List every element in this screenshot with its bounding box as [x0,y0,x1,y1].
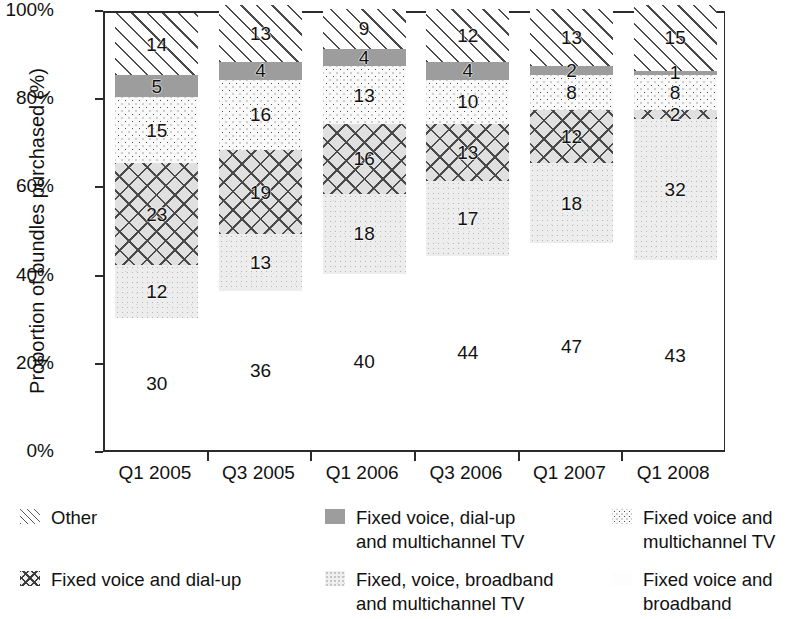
bar-segment-value: 15 [146,121,167,140]
bar-segment[interactable]: 16 [323,124,406,195]
y-axis-tick-mark [95,275,103,277]
legend-label-dialup-mtv: Fixed voice, dial-up and multichannel TV [356,506,524,554]
bar-segment[interactable]: 4 [323,49,406,67]
bar-q3-2006[interactable]: 44171310412 [426,9,509,450]
bar-segment-value: 14 [146,35,167,54]
bar-segment-value: 13 [457,143,478,162]
bar-segment[interactable]: 15 [115,97,198,163]
bar-segment-value: 8 [670,83,681,102]
x-axis-tick-label: Q1 2006 [310,462,414,484]
legend-item-voice-dialup[interactable]: Fixed voice and dial-up [20,568,241,592]
x-axis-tick-label: Q1 2008 [621,462,725,484]
legend-item-other[interactable]: Other [20,506,97,530]
legend-swatch-voice-dialup [20,571,40,586]
bar-segment-value: 5 [152,77,163,96]
bar-segment[interactable]: 32 [634,119,717,260]
bar-segment[interactable]: 15 [634,5,717,71]
legend-label-voice-bb-mtv: Fixed, voice, broadband and multichannel… [356,568,553,616]
bar-segment-value: 12 [457,26,478,45]
x-axis-tick-label: Q1 2007 [518,462,622,484]
stacked-bar-chart: Proportion of bundles purchased (%) 100%… [0,0,796,619]
bar-segment[interactable]: 4 [219,62,302,80]
bar-q1-2007[interactable]: 4718128213 [530,9,613,450]
legend-swatch-other [20,509,40,524]
bar-segment[interactable]: 2 [634,110,717,119]
bar-segment[interactable]: 19 [219,150,302,234]
bar-segment[interactable]: 17 [426,181,509,256]
bar-segment[interactable]: 13 [426,124,509,181]
bar-segment[interactable]: 13 [323,66,406,123]
bar-segment[interactable]: 18 [530,163,613,242]
legend-swatch-voice-mtv [612,509,632,524]
bar-segment-value: 32 [665,180,686,199]
y-axis-tick-mark [95,10,103,12]
bar-segment-value: 10 [457,92,478,111]
bar-segment[interactable]: 14 [115,13,198,75]
bar-segment[interactable]: 13 [219,234,302,291]
legend-swatch-voice-bb-mtv [325,571,345,586]
y-axis-tick-mark [95,98,103,100]
legend-item-dialup-mtv[interactable]: Fixed voice, dial-up and multichannel TV [325,506,524,554]
bar-segment[interactable]: 30 [115,318,198,450]
bar-segment-value: 17 [457,209,478,228]
x-axis-tick-mark [207,452,209,461]
bar-segment[interactable]: 44 [426,256,509,450]
bar-segment-value: 18 [354,224,375,243]
legend-swatch-dialup-mtv [325,509,345,524]
bar-segment[interactable]: 12 [530,110,613,163]
legend-item-voice-bb[interactable]: Fixed voice and broadband [612,568,773,616]
bar-q1-2008[interactable]: 433228115 [634,9,717,450]
legend-item-voice-mtv[interactable]: Fixed voice and multichannel TV [612,506,775,554]
bar-segment[interactable]: 5 [115,75,198,97]
bar-segment-value: 4 [359,48,370,67]
bar-segment[interactable]: 16 [219,80,302,151]
bar-q1-2006[interactable]: 4018161349 [323,9,406,450]
legend-item-voice-bb-mtv[interactable]: Fixed, voice, broadband and multichannel… [325,568,553,616]
bar-segment-value: 4 [463,61,474,80]
bar-segment[interactable]: 36 [219,291,302,450]
bar-segment-value: 13 [250,24,271,43]
legend-label-voice-mtv: Fixed voice and multichannel TV [643,506,775,554]
bar-segment-value: 8 [566,83,577,102]
bar-segment-value: 1 [670,63,681,82]
bar-segment[interactable]: 13 [219,5,302,62]
x-axis-tick-label: Q1 2005 [103,462,207,484]
bar-segment-value: 23 [146,205,167,224]
bar-segment[interactable]: 40 [323,274,406,450]
bar-q1-2005[interactable]: 30122315514 [115,9,198,450]
bar-segment-value: 16 [354,149,375,168]
bar-segment-value: 47 [561,337,582,356]
chart-legend: OtherFixed voice and dial-upFixed voice,… [0,498,796,619]
bar-segment[interactable]: 23 [115,163,198,264]
y-axis-title: Proportion of bundles purchased (%) [26,0,52,466]
bar-segment-value: 12 [561,127,582,146]
x-axis-tick-label: Q3 2006 [414,462,518,484]
bar-segment-value: 44 [457,343,478,362]
bar-segment[interactable]: 1 [634,71,717,75]
bar-segment-value: 12 [146,282,167,301]
bar-segment[interactable]: 9 [323,9,406,49]
bar-segment[interactable]: 12 [426,9,509,62]
bar-segment-value: 40 [354,352,375,371]
bar-segment-value: 2 [670,105,681,124]
bar-segment-value: 30 [146,374,167,393]
x-axis-tick-label: Q3 2005 [207,462,311,484]
bar-segment[interactable]: 47 [530,243,613,450]
bar-segment[interactable]: 12 [115,265,198,318]
bar-segment[interactable]: 13 [530,9,613,66]
bar-segment[interactable]: 18 [323,194,406,273]
legend-label-voice-bb: Fixed voice and broadband [643,568,773,616]
bar-segment-value: 13 [354,86,375,105]
bar-segment[interactable]: 43 [634,260,717,450]
bar-segment-value: 18 [561,194,582,213]
legend-label-voice-dialup: Fixed voice and dial-up [51,568,241,592]
bar-segment-value: 16 [250,105,271,124]
bar-segment[interactable]: 10 [426,80,509,124]
bar-q3-2005[interactable]: 36131916413 [219,9,302,450]
bar-segment[interactable]: 4 [426,62,509,80]
bar-segment[interactable]: 2 [530,66,613,75]
bar-segment-value: 2 [566,61,577,80]
x-axis-tick-mark [518,452,520,461]
bar-segment-value: 13 [250,253,271,272]
x-axis-tick-mark [621,452,623,461]
